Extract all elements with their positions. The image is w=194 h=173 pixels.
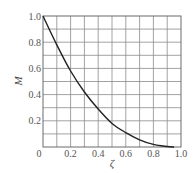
x-tick-label: 1.0: [175, 148, 188, 159]
x-tick-label: 0: [37, 148, 42, 159]
y-axis-label: M: [12, 76, 24, 87]
y-tick-label: 0.8: [29, 37, 42, 48]
x-tick-label: 0.4: [92, 148, 105, 159]
x-tick-label: 0.8: [147, 148, 160, 159]
y-tick-label: 0.4: [29, 89, 42, 100]
y-tick-label: 0.2: [29, 115, 42, 126]
x-tick-label: 0.2: [64, 148, 77, 159]
grid-lines: [43, 16, 181, 147]
y-tick-label: 1.0: [29, 11, 42, 22]
x-axis-label: ζ: [110, 157, 116, 170]
y-axis-ticks: 0.20.40.60.81.0: [29, 11, 42, 127]
x-tick-label: 0.6: [120, 148, 133, 159]
chart: 00.20.40.60.81.0 0.20.40.60.81.0 ζ M: [0, 0, 194, 173]
y-tick-label: 0.6: [29, 63, 42, 74]
